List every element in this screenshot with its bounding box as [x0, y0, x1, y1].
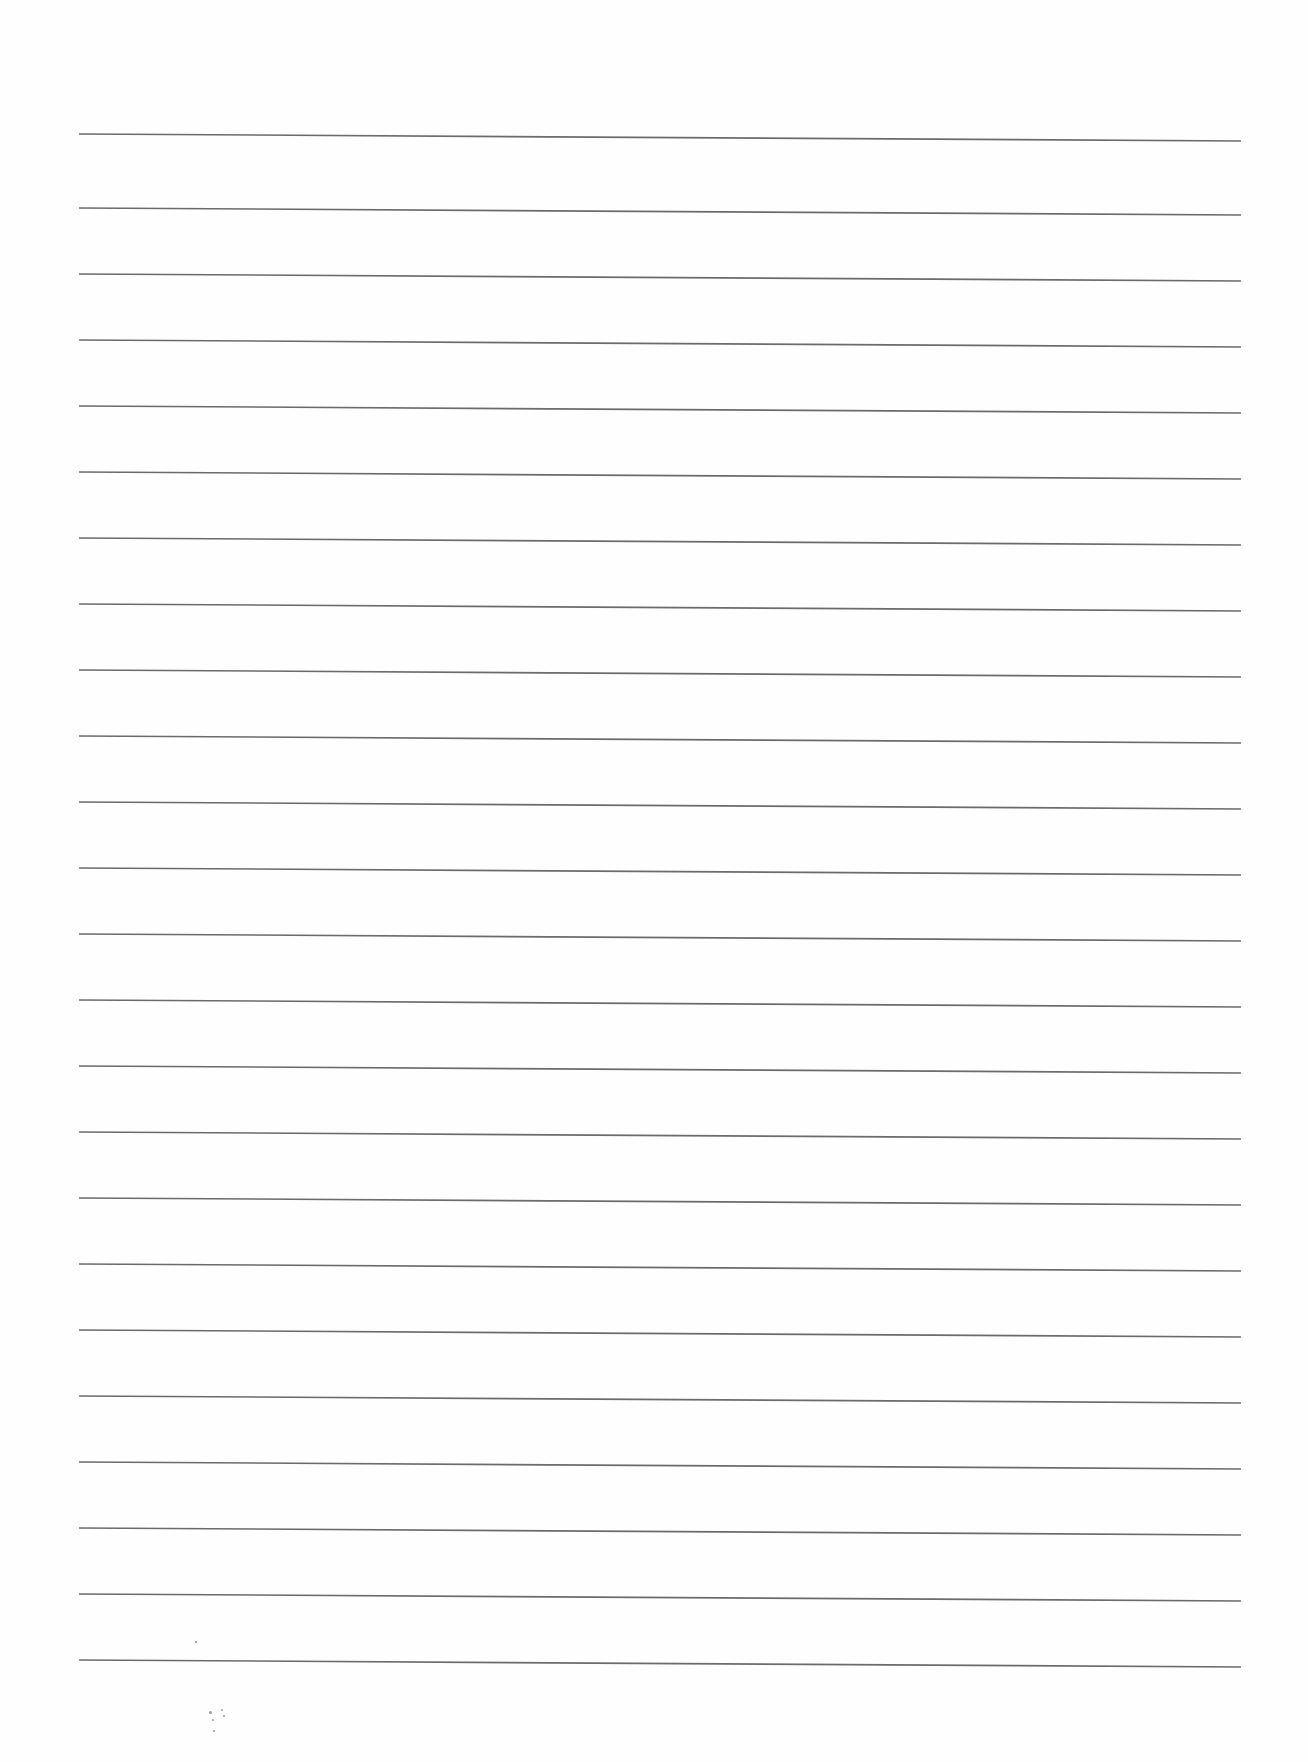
- ruled-line: [79, 1660, 1241, 1667]
- ruled-line: [79, 1066, 1241, 1073]
- lined-paper-sheet: [0, 0, 1308, 1762]
- ruled-line: [79, 1396, 1241, 1403]
- ruled-line: [79, 274, 1241, 281]
- ruled-line: [79, 1264, 1241, 1271]
- ruled-line: [79, 538, 1241, 545]
- ruled-line: [79, 1198, 1241, 1205]
- speck: [195, 1641, 197, 1643]
- ruled-line: [79, 1462, 1241, 1469]
- ruled-lines: [0, 0, 1308, 1762]
- ruled-line: [79, 670, 1241, 677]
- ruled-line: [79, 1330, 1241, 1337]
- ruled-line: [79, 868, 1241, 875]
- ruled-line: [79, 604, 1241, 611]
- ruled-line: [79, 208, 1241, 215]
- ruled-line: [79, 802, 1241, 809]
- ruled-line: [79, 1000, 1241, 1007]
- ruled-line: [79, 934, 1241, 941]
- ruled-line: [79, 1528, 1241, 1535]
- ruled-line: [79, 340, 1241, 347]
- speck: [221, 1709, 223, 1711]
- ruled-line: [79, 1594, 1241, 1601]
- speck: [209, 1711, 212, 1714]
- ruled-line: [79, 472, 1241, 479]
- ruled-line: [79, 1132, 1241, 1139]
- ruled-line: [79, 134, 1241, 141]
- ruled-line: [79, 736, 1241, 743]
- ruled-line: [79, 406, 1241, 413]
